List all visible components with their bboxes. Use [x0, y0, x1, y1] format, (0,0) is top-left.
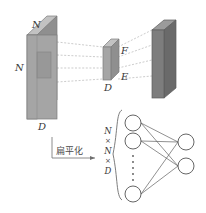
- flat-dim-1: N: [101, 126, 115, 136]
- flat-vector-dims: N × N × D: [101, 126, 115, 176]
- flat-op-2: ×: [101, 156, 115, 166]
- input-volume-top-label: N: [32, 20, 41, 30]
- output-node-2: [178, 158, 194, 174]
- flat-dim-2: N: [101, 146, 115, 156]
- projection-lines-input-to-filter: [57, 42, 103, 82]
- output-volume-shape: [152, 20, 176, 98]
- flat-dim-3: D: [101, 166, 115, 176]
- filter-volume-top-right-label: F: [121, 46, 128, 56]
- network-edges: [141, 123, 178, 194]
- flatten-label: 扁平化: [56, 147, 83, 156]
- input-volume-shape: [27, 16, 57, 119]
- filter-volume-depth-label: D: [104, 83, 112, 93]
- flat-op-1: ×: [101, 136, 115, 146]
- filter-volume-bottom-right-label: E: [121, 72, 128, 82]
- input-node-3: [125, 186, 141, 202]
- network-nodes: [125, 115, 194, 202]
- filter-volume-shape: [103, 39, 119, 80]
- output-node-1: [178, 134, 194, 150]
- input-node-2: [125, 133, 141, 149]
- vertical-ellipsis-dots: [132, 155, 134, 181]
- input-node-1: [125, 115, 141, 131]
- input-volume-bottom-label: D: [38, 122, 46, 132]
- figure-canvas: N N D F E D 扁平化 N × N × D: [0, 0, 206, 213]
- input-volume-left-label: N: [15, 63, 24, 73]
- diagram-svg: [0, 0, 206, 213]
